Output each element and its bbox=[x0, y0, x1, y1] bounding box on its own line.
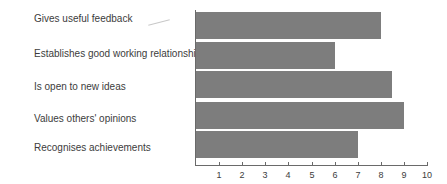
category-label: Establishes good working relationships bbox=[34, 48, 206, 59]
x-tick bbox=[404, 162, 405, 166]
x-tick-label: 4 bbox=[285, 170, 290, 180]
bar bbox=[196, 131, 358, 158]
bar bbox=[196, 42, 335, 69]
x-tick-label: 1 bbox=[216, 170, 221, 180]
x-tick bbox=[288, 162, 289, 166]
category-label: Is open to new ideas bbox=[34, 81, 126, 92]
x-tick-label: 10 bbox=[422, 170, 432, 180]
y-axis bbox=[195, 10, 196, 166]
x-tick-label: 7 bbox=[355, 170, 360, 180]
bar bbox=[196, 12, 381, 39]
bar bbox=[196, 102, 404, 129]
category-label: Gives useful feedback bbox=[34, 13, 132, 24]
category-label: Values others' opinions bbox=[34, 113, 136, 124]
x-tick bbox=[427, 162, 428, 166]
x-tick-label: 3 bbox=[262, 170, 267, 180]
x-tick bbox=[358, 162, 359, 166]
decorative-stroke bbox=[148, 19, 170, 25]
x-tick-label: 2 bbox=[239, 170, 244, 180]
x-tick-label: 9 bbox=[401, 170, 406, 180]
x-tick bbox=[242, 162, 243, 166]
x-tick bbox=[219, 162, 220, 166]
x-tick bbox=[312, 162, 313, 166]
bar bbox=[196, 71, 392, 98]
x-tick bbox=[381, 162, 382, 166]
x-tick-label: 8 bbox=[378, 170, 383, 180]
x-tick bbox=[265, 162, 266, 166]
x-tick-label: 5 bbox=[309, 170, 314, 180]
x-tick bbox=[335, 162, 336, 166]
x-tick-label: 6 bbox=[332, 170, 337, 180]
category-label: Recognises achievements bbox=[34, 142, 151, 153]
